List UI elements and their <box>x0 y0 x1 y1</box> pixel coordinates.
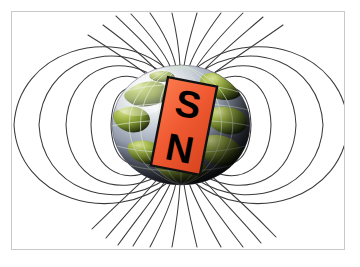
magnetic-field-diagram: S N <box>0 0 360 267</box>
figure-stage: S N Earth's magnetic field represented a… <box>0 0 360 267</box>
